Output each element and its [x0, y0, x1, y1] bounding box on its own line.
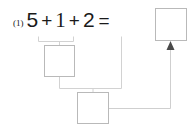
term-third: 2 [83, 9, 95, 30]
equals-sign: = [99, 11, 110, 30]
operator-plus-second: + [69, 11, 80, 30]
term-second: 1 [55, 10, 66, 31]
step1-answer-box[interactable] [44, 45, 75, 77]
term-first: 5 [27, 9, 39, 30]
equation-row: (1) 5 + 1 + 2 = [13, 9, 110, 31]
problem-number-label: (1) [13, 19, 24, 28]
arrow-connector-icon [109, 41, 175, 109]
result-answer-box[interactable] [155, 8, 187, 41]
bracket-first-pair-icon [39, 37, 74, 46]
operator-plus-first: + [41, 11, 52, 30]
step2-answer-box[interactable] [77, 92, 109, 124]
math-worksheet-problem: (1) 5 + 1 + 2 = [0, 0, 194, 127]
